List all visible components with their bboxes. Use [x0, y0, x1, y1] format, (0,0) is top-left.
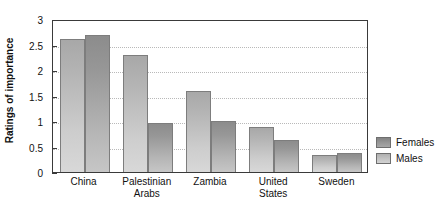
x-axis-tick-label-line1: Sweden	[318, 176, 354, 187]
bar-males	[312, 155, 337, 172]
x-axis-tick-label: PalestinianArabs	[115, 176, 178, 200]
bar-females	[274, 140, 299, 172]
legend-item: Males	[376, 153, 442, 164]
y-axis-tick-label: 2	[18, 66, 48, 77]
y-axis-tick-label: 1	[18, 117, 48, 128]
y-axis-tick-label: 0.5	[18, 142, 48, 153]
y-axis-tick-label: 2.5	[18, 40, 48, 51]
y-axis-title: Ratings of importance	[0, 0, 20, 180]
bar-females	[148, 123, 173, 172]
y-axis-tick-label: 0	[18, 168, 48, 179]
x-axis-tick-label-line1: Zambia	[193, 176, 226, 187]
bar-males	[249, 127, 274, 172]
x-axis-tick-label: Zambia	[178, 176, 241, 188]
x-axis-tick-label-line2: Arabs	[115, 188, 178, 200]
legend-swatch-females	[376, 137, 391, 148]
y-axis-tick-mark	[52, 71, 57, 72]
bar-females	[85, 35, 110, 172]
y-axis-tick-mark	[52, 20, 57, 21]
x-axis-tick-label: Sweden	[305, 176, 368, 188]
x-axis-tick-label: UnitedStates	[242, 176, 305, 200]
y-axis-tick-label: 3	[18, 15, 48, 26]
y-axis-tick-mark	[52, 46, 57, 47]
x-axis-tick-label: China	[52, 176, 115, 188]
bar-males	[60, 39, 85, 172]
x-axis-tick-label-line2: States	[242, 188, 305, 200]
bar-group	[243, 20, 306, 172]
y-axis-title-text: Ratings of importance	[5, 37, 16, 143]
bar-males	[186, 91, 211, 172]
legend-item: Females	[376, 137, 442, 148]
bar-group	[306, 20, 368, 172]
bar-group	[116, 20, 179, 172]
legend-label: Males	[396, 153, 423, 164]
bar-females	[337, 153, 362, 172]
y-axis-tick-mark	[52, 97, 57, 98]
y-axis-tick-mark	[52, 173, 57, 174]
x-axis-tick-label-line1: China	[71, 176, 97, 187]
legend: FemalesMales	[376, 137, 442, 169]
bar-group	[53, 20, 116, 172]
y-axis-tick-labels: 00.511.522.53	[18, 20, 48, 173]
legend-swatch-males	[376, 153, 391, 164]
y-axis-tick-mark	[52, 148, 57, 149]
x-axis-tick-labels: ChinaPalestinianArabsZambiaUnitedStatesS…	[52, 176, 368, 208]
bar-chart-figure: Ratings of importance 00.511.522.53 Chin…	[0, 0, 443, 208]
bar-males	[123, 55, 148, 172]
bar-group	[179, 20, 242, 172]
y-axis-tick-mark	[52, 122, 57, 123]
plot-area	[52, 20, 368, 173]
bar-females	[211, 121, 236, 172]
x-axis-tick-label-line1: Palestinian	[122, 176, 171, 187]
legend-label: Females	[396, 137, 434, 148]
y-axis-tick-label: 1.5	[18, 91, 48, 102]
x-axis-tick-label-line1: United	[259, 176, 288, 187]
